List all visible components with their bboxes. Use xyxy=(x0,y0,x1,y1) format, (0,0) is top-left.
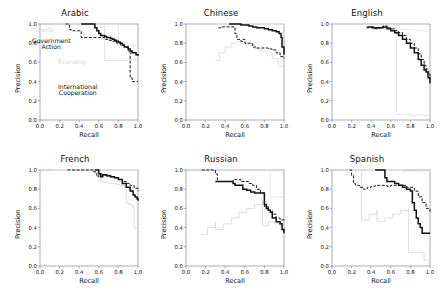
y-tick-label: 0.2 xyxy=(18,244,37,250)
x-tick-label: 0.2 xyxy=(197,269,215,275)
x-tick-label: 0.6 xyxy=(382,123,400,129)
y-tick-label: 1.0 xyxy=(164,167,183,173)
x-tick-label: 1.0 xyxy=(275,269,293,275)
x-tick-label: 1.0 xyxy=(129,123,147,129)
x-tick-label: 0.6 xyxy=(90,269,108,275)
x-tick-label: 0.4 xyxy=(216,269,234,275)
y-tick-label: 0.2 xyxy=(18,98,37,104)
x-axis-label: Recall xyxy=(332,131,430,139)
x-axis-label: Recall xyxy=(40,277,138,285)
x-tick-label: 0.8 xyxy=(109,269,127,275)
y-axis-label: Precision xyxy=(306,210,314,239)
curve-economy xyxy=(97,177,138,228)
y-tick-label: 0.2 xyxy=(310,98,329,104)
panel-russian: Russian0.00.20.40.60.81.00.00.20.40.60.8… xyxy=(148,148,294,292)
curve-international-cooperation xyxy=(215,182,284,234)
y-tick-label: 1.0 xyxy=(310,21,329,27)
x-tick-label: 0.2 xyxy=(51,269,69,275)
y-tick-label: 1.0 xyxy=(164,21,183,27)
x-tick-label: 0.8 xyxy=(255,269,273,275)
x-axis-label: Recall xyxy=(40,131,138,139)
y-tick-label: 0.2 xyxy=(164,98,183,104)
x-tick-label: 0.0 xyxy=(323,123,341,129)
curve-economy xyxy=(200,201,284,235)
panel-chinese: Chinese0.00.20.40.60.81.00.00.20.40.60.8… xyxy=(148,2,294,146)
y-axis-label: Precision xyxy=(160,64,168,93)
y-tick-label: 0.2 xyxy=(310,244,329,250)
annotation-sports: Sports xyxy=(34,27,54,33)
x-tick-label: 1.0 xyxy=(129,269,147,275)
x-tick-label: 0.0 xyxy=(31,123,49,129)
curve-government-action xyxy=(218,27,284,59)
x-tick-label: 0.8 xyxy=(401,123,419,129)
annotation-international-cooperation: International Cooperation xyxy=(58,84,98,97)
x-tick-label: 0.2 xyxy=(51,123,69,129)
x-tick-label: 0.4 xyxy=(362,123,380,129)
y-axis-label: Precision xyxy=(306,64,314,93)
x-tick-label: 0.6 xyxy=(382,269,400,275)
x-tick-label: 0.6 xyxy=(236,269,254,275)
curve-international-cooperation xyxy=(375,170,430,233)
x-tick-label: 0.2 xyxy=(197,123,215,129)
x-tick-label: 0.8 xyxy=(109,123,127,129)
x-tick-label: 1.0 xyxy=(421,123,439,129)
x-axis-label: Recall xyxy=(186,277,284,285)
x-tick-label: 0.4 xyxy=(70,123,88,129)
x-tick-label: 0.8 xyxy=(401,269,419,275)
annotation-economy: Economy xyxy=(58,59,87,65)
x-tick-label: 0.0 xyxy=(31,269,49,275)
x-tick-label: 0.0 xyxy=(177,269,195,275)
curve-government-action xyxy=(65,24,138,82)
x-tick-label: 0.4 xyxy=(216,123,234,129)
figure-precision-recall-grid: Arabic0.00.20.40.60.81.00.00.20.40.60.81… xyxy=(0,0,442,292)
y-tick-label: 0.8 xyxy=(164,40,183,46)
curve-sports xyxy=(348,170,430,173)
y-axis-label: Precision xyxy=(14,64,22,93)
x-tick-label: 0.2 xyxy=(343,269,361,275)
x-tick-label: 0.6 xyxy=(90,123,108,129)
y-tick-label: 0.8 xyxy=(164,186,183,192)
panel-spanish: Spanish0.00.20.40.60.81.00.00.20.40.60.8… xyxy=(294,148,440,292)
x-tick-label: 0.6 xyxy=(236,123,254,129)
x-tick-label: 0.4 xyxy=(362,269,380,275)
annotation-government-action: Government Action xyxy=(32,38,71,51)
x-axis-label: Recall xyxy=(332,277,430,285)
curve-economy xyxy=(342,24,430,115)
y-tick-label: 1.0 xyxy=(18,167,37,173)
y-axis-label: Precision xyxy=(160,210,168,239)
curve-economy xyxy=(215,41,284,75)
y-tick-label: 1.0 xyxy=(310,167,329,173)
y-tick-label: 0.8 xyxy=(310,186,329,192)
x-axis-label: Recall xyxy=(186,131,284,139)
x-tick-label: 0.0 xyxy=(323,269,341,275)
x-tick-label: 0.4 xyxy=(70,269,88,275)
y-tick-label: 0.2 xyxy=(164,244,183,250)
y-tick-label: 0.8 xyxy=(18,186,37,192)
x-tick-label: 1.0 xyxy=(275,123,293,129)
panel-english: English0.00.20.40.60.81.00.00.20.40.60.8… xyxy=(294,2,440,146)
curve-international-cooperation xyxy=(367,27,430,84)
y-axis-label: Precision xyxy=(14,210,22,239)
panel-arabic: Arabic0.00.20.40.60.81.00.00.20.40.60.81… xyxy=(2,2,148,146)
panel-french: French0.00.20.40.60.81.00.00.20.40.60.81… xyxy=(2,148,148,292)
y-tick-label: 0.8 xyxy=(310,40,329,46)
x-tick-label: 0.8 xyxy=(255,123,273,129)
x-tick-label: 1.0 xyxy=(421,269,439,275)
x-tick-label: 0.0 xyxy=(177,123,195,129)
x-tick-label: 0.2 xyxy=(343,123,361,129)
